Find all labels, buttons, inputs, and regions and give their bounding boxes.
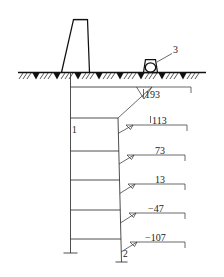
- part-label-2: 2: [123, 249, 128, 259]
- callout-n47-group: −47: [120, 203, 185, 224]
- callout-n107-group: −107: [121, 232, 185, 253]
- geotechnical-section-figure: 193 113 73 13: [0, 0, 224, 277]
- pile-shaft-line: [118, 118, 122, 262]
- surface-equipment-shape: [144, 54, 173, 73]
- part-label-1: 1: [72, 125, 77, 135]
- callout-label-n47: −47: [148, 203, 164, 214]
- callout-label-113: 113: [152, 115, 167, 126]
- leader-line-3: [157, 54, 172, 63]
- left-wall-group: [64, 73, 78, 254]
- callout-diagonal-n47: [120, 213, 136, 223]
- callout-label-13: 13: [155, 174, 165, 185]
- part-label-3: 3: [173, 44, 178, 55]
- callout-label-n107: −107: [145, 232, 166, 243]
- trapezoid-structure: [62, 20, 90, 73]
- ground-hatching: [19, 73, 199, 79]
- callout-113-group: 113: [118, 115, 187, 134]
- callout-193-group: 193: [118, 87, 191, 118]
- callout-label-193: 193: [145, 89, 160, 100]
- section-drawing-canvas: 193 113 73 13: [0, 0, 224, 277]
- strut-lines-group: [71, 87, 153, 239]
- ground-surface-group: [18, 73, 206, 80]
- callout-73-group: 73: [119, 145, 185, 165]
- callout-13-group: 13: [120, 174, 185, 194]
- callout-label-73: 73: [155, 145, 165, 156]
- ground-triangle-markers: [33, 73, 187, 80]
